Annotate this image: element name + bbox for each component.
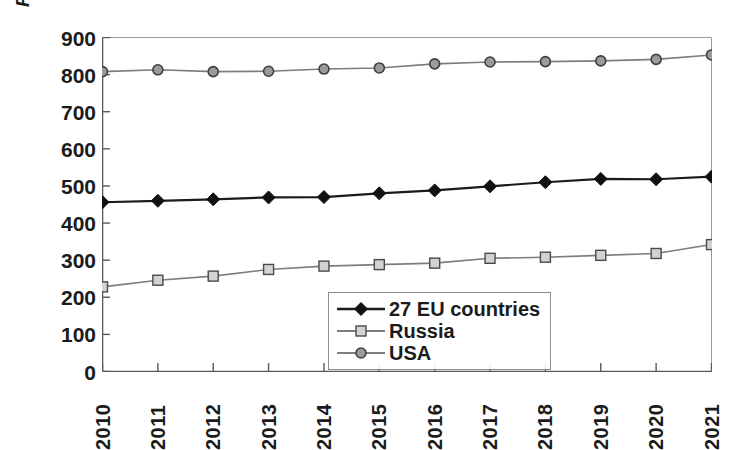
data-point — [430, 59, 440, 69]
x-tick-label-2021: 2021 — [701, 376, 723, 450]
y-tick-label-500: 500 — [42, 175, 96, 196]
x-tick-label-2013: 2013 — [258, 376, 280, 450]
data-point — [208, 271, 218, 281]
y-tick-label-400: 400 — [42, 213, 96, 234]
data-point — [651, 54, 661, 64]
data-point — [485, 253, 495, 263]
legend-item-russia[interactable]: Russia — [335, 320, 540, 342]
data-point — [208, 67, 218, 77]
legend-item-27-eu-countries[interactable]: 27 EU countries — [335, 298, 540, 320]
data-point — [540, 57, 550, 67]
data-point — [262, 191, 275, 204]
legend-label: USA — [389, 343, 431, 363]
x-tick-label-2018: 2018 — [534, 376, 556, 450]
data-point — [650, 173, 663, 186]
data-point — [485, 57, 495, 67]
data-series-layer — [102, 50, 712, 292]
y-axis-title: Passanger cars per 1000 inhabitans — [6, 8, 40, 378]
data-point — [707, 50, 713, 60]
x-tick-label-2020: 2020 — [645, 376, 667, 450]
chart-figure: Passanger cars per 1000 inhabitans 90080… — [0, 0, 746, 450]
data-point — [317, 191, 330, 204]
series-line — [103, 245, 712, 287]
data-point — [651, 248, 661, 258]
data-point — [484, 180, 497, 193]
x-tick-label-2017: 2017 — [479, 376, 501, 450]
x-tick-label-2014: 2014 — [313, 376, 335, 450]
data-point — [374, 63, 384, 73]
x-tick-label-2019: 2019 — [590, 376, 612, 450]
data-point — [102, 282, 108, 292]
data-point — [153, 275, 163, 285]
series-usa — [102, 50, 712, 77]
y-tick-label-700: 700 — [42, 101, 96, 122]
data-point — [373, 187, 386, 200]
x-tick-label-2016: 2016 — [424, 376, 446, 450]
legend-marker-circle-icon — [335, 343, 387, 363]
data-point — [707, 240, 713, 250]
data-point — [151, 194, 164, 207]
x-axis-tick-labels: 2010201120122013201420152016201720182019… — [0, 378, 746, 450]
data-point — [539, 176, 552, 189]
data-point — [594, 172, 607, 185]
data-point — [319, 64, 329, 74]
y-tick-label-600: 600 — [42, 138, 96, 159]
data-point — [264, 264, 274, 274]
legend-label: Russia — [389, 321, 455, 341]
legend-marker-square-icon — [335, 321, 387, 341]
x-tick-label-2011: 2011 — [147, 376, 169, 450]
series-russia — [102, 240, 712, 292]
x-tick-label-2015: 2015 — [368, 376, 390, 450]
y-tick-label-800: 800 — [42, 64, 96, 85]
y-tick-label-900: 900 — [42, 27, 96, 48]
data-point — [540, 252, 550, 262]
y-axis-title-text: Passanger cars per 1000 inhabitans — [6, 0, 40, 42]
legend-item-usa[interactable]: USA — [335, 342, 540, 364]
chart-legend: 27 EU countriesRussiaUSA — [328, 292, 551, 370]
data-point — [428, 184, 441, 197]
data-point — [102, 67, 108, 77]
legend-label: 27 EU countries — [389, 299, 540, 319]
series-line — [103, 55, 712, 72]
data-point — [207, 193, 220, 206]
data-point — [319, 261, 329, 271]
x-tick-label-2012: 2012 — [202, 376, 224, 450]
y-tick-label-100: 100 — [42, 324, 96, 345]
y-tick-label-300: 300 — [42, 250, 96, 271]
data-point — [102, 196, 109, 209]
series-line — [103, 177, 712, 203]
data-point — [264, 66, 274, 76]
data-point — [374, 260, 384, 270]
series-27-eu-countries — [102, 170, 712, 209]
x-tick-label-2010: 2010 — [92, 376, 114, 450]
data-point — [596, 250, 606, 260]
data-point — [153, 65, 163, 75]
data-point — [596, 56, 606, 66]
data-point — [430, 258, 440, 268]
data-point — [705, 170, 712, 183]
y-tick-label-200: 200 — [42, 287, 96, 308]
legend-marker-diamond-icon — [335, 299, 387, 319]
